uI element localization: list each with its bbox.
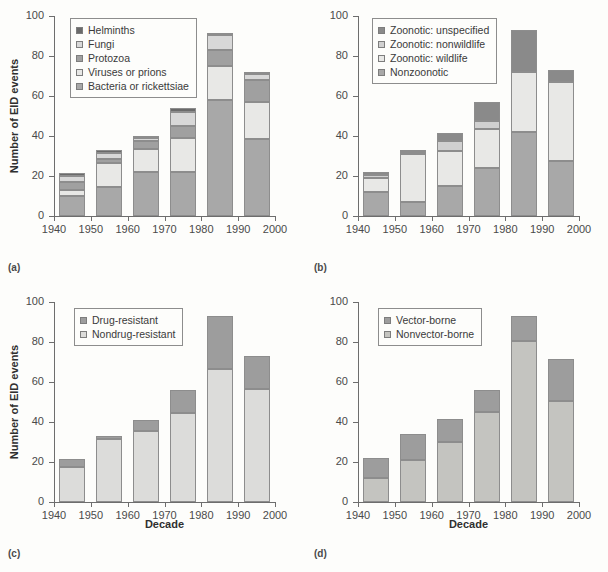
y-tick-label-20: 20	[32, 454, 44, 469]
y-tick-20: 20	[353, 462, 358, 463]
bar-segment-nonzoonotic	[363, 192, 389, 216]
x-tick-1940	[358, 502, 359, 507]
bar-segment-bacteria-or-rickettsiae	[133, 172, 159, 216]
bar-segment-protozoa	[96, 159, 122, 163]
legend-item: Nonzoonotic	[378, 65, 489, 79]
panel-b-plot-area: 0204060801001940195019601970198019902000…	[358, 16, 579, 216]
legend-item: Helminths	[76, 23, 189, 37]
legend-item: Zoonotic: nonwildlife	[378, 37, 489, 51]
x-tick-1970	[469, 216, 470, 221]
bar-segment-zoonotic-wildlife	[363, 178, 389, 192]
bar-segment-drug-resistant	[59, 459, 85, 467]
y-tick-40: 40	[353, 136, 358, 137]
x-tick-label-1990: 1990	[226, 223, 250, 235]
bar-1990s	[244, 302, 270, 502]
bar-segment-zoonotic-unspecified	[474, 102, 500, 121]
x-tick-label-1940: 1940	[42, 223, 66, 235]
bar-segment-zoonotic-nonwildlife	[363, 175, 389, 178]
bar-segment-bacteria-or-rickettsiae	[244, 139, 270, 216]
y-axis-line	[54, 302, 55, 503]
legend-swatch-icon	[384, 331, 391, 338]
y-tick-label-100: 100	[330, 8, 348, 23]
legend-item: Vector-borne	[384, 313, 474, 327]
y-tick-label-100: 100	[330, 294, 348, 309]
x-tick-label-1960: 1960	[115, 223, 139, 235]
x-tick-1980	[201, 216, 202, 221]
x-tick-label-2000: 2000	[263, 223, 287, 235]
bar-1980s	[511, 16, 537, 216]
y-tick-40: 40	[353, 422, 358, 423]
bar-segment-fungi	[244, 74, 270, 80]
bar-segment-zoonotic-nonwildlife	[474, 121, 500, 129]
y-tick-20: 20	[49, 462, 54, 463]
bar-segment-viruses-or-prions	[170, 138, 196, 172]
bar-segment-bacteria-or-rickettsiae	[207, 100, 233, 216]
panel-b-label: (b)	[314, 262, 327, 273]
y-tick-label-80: 80	[336, 334, 348, 349]
legend-item: Zoonotic: unspecified	[378, 23, 489, 37]
x-tick-label-1980: 1980	[189, 223, 213, 235]
bar-segment-protozoa	[59, 182, 85, 190]
y-tick-label-40: 40	[336, 128, 348, 143]
legend-item: Nonvector-borne	[384, 327, 474, 341]
panel-c-x-axis-title: Decade	[54, 518, 275, 530]
y-tick-100: 100	[49, 16, 54, 17]
bar-segment-zoonotic-wildlife	[511, 72, 537, 132]
bar-segment-vector-borne	[363, 458, 389, 478]
bar-segment-helminths	[133, 136, 159, 138]
y-tick-label-20: 20	[32, 168, 44, 183]
x-tick-1990	[542, 216, 543, 221]
bar-segment-zoonotic-nonwildlife	[400, 152, 426, 154]
bar-segment-fungi	[207, 35, 233, 50]
panel-a-label: (a)	[8, 262, 20, 273]
x-tick-label-1960: 1960	[419, 223, 443, 235]
x-tick-1970	[165, 502, 166, 507]
x-tick-1940	[358, 216, 359, 221]
panel-d-x-axis-title: Decade	[358, 518, 579, 530]
bar-segment-viruses-or-prions	[59, 190, 85, 196]
legend-swatch-icon	[76, 41, 83, 48]
panel-a-plot-area: 0204060801001940195019601970198019902000…	[54, 16, 275, 216]
x-tick-1970	[469, 502, 470, 507]
legend-item: Drug-resistant	[80, 313, 175, 327]
bar-1990s	[548, 16, 574, 216]
bar-segment-nonvector-borne	[363, 478, 389, 502]
y-tick-label-40: 40	[32, 128, 44, 143]
x-tick-1950	[395, 502, 396, 507]
bar-segment-zoonotic-unspecified	[437, 133, 463, 141]
panel-c-legend: Drug-resistantNondrug-resistant	[74, 308, 183, 346]
legend-item: Bacteria or rickettsiae	[76, 79, 189, 93]
panel-b: 0204060801001940195019601970198019902000…	[304, 0, 608, 286]
bar-segment-protozoa	[207, 50, 233, 66]
bar-segment-zoonotic-unspecified	[363, 172, 389, 175]
bar-segment-bacteria-or-rickettsiae	[96, 187, 122, 216]
y-tick-label-80: 80	[32, 334, 44, 349]
x-tick-1990	[542, 502, 543, 507]
y-axis-line	[54, 16, 55, 217]
x-tick-1980	[201, 502, 202, 507]
legend-swatch-icon	[378, 69, 385, 76]
legend-swatch-icon	[384, 317, 391, 324]
y-tick-label-40: 40	[336, 414, 348, 429]
bar-segment-fungi	[59, 176, 85, 182]
bar-segment-nondrug-resistant	[96, 439, 122, 502]
panel-d-plot-area: 0204060801001940195019601970198019902000…	[358, 302, 579, 502]
bar-segment-drug-resistant	[207, 316, 233, 369]
y-tick-label-60: 60	[336, 374, 348, 389]
bar-segment-helminths	[207, 33, 233, 35]
y-tick-60: 60	[49, 96, 54, 97]
legend-label: Protozoa	[88, 51, 130, 65]
bar-1990s	[244, 16, 270, 216]
bar-segment-fungi	[170, 112, 196, 126]
panel-d: 0204060801001940195019601970198019902000…	[304, 286, 608, 572]
bar-segment-protozoa	[244, 80, 270, 102]
legend-label: Zoonotic: wildlife	[390, 51, 468, 65]
bar-segment-nonzoonotic	[437, 186, 463, 216]
x-tick-label-1940: 1940	[346, 223, 370, 235]
x-tick-1980	[505, 216, 506, 221]
bar-segment-zoonotic-wildlife	[548, 82, 574, 161]
bar-segment-nondrug-resistant	[133, 431, 159, 502]
bar-segment-zoonotic-nonwildlife	[437, 141, 463, 151]
bar-segment-nondrug-resistant	[170, 413, 196, 502]
panel-d-label: (d)	[314, 548, 327, 559]
